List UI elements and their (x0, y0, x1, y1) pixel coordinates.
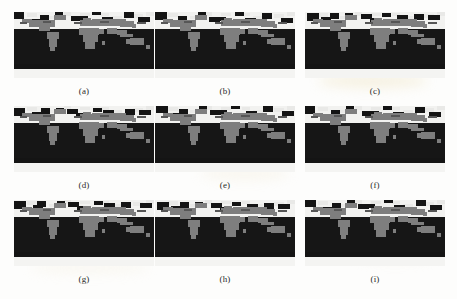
ice-core-patch (318, 201, 329, 206)
sea-ice-speckle (365, 116, 373, 118)
landmass (398, 122, 408, 128)
landmass (388, 123, 396, 128)
landmass (423, 118, 427, 122)
panel-i-map (305, 200, 445, 266)
sea-ice-speckle (311, 116, 319, 118)
landmass (411, 34, 424, 37)
polar-dark-intrusion (382, 13, 390, 17)
panel-grid: (a)(b)(c)(d)(e)(f)(g)(h)(i) (0, 0, 457, 299)
landmass (340, 38, 348, 47)
panel-i-caption: (i) (305, 274, 445, 284)
landmass (388, 217, 396, 222)
landmass (374, 112, 382, 116)
polar-dark-intrusion (305, 200, 316, 207)
landmass (393, 41, 396, 45)
ice-core-patch (318, 107, 329, 112)
landmass (437, 139, 441, 143)
sea-ice-speckle (428, 210, 436, 212)
landmass (398, 28, 408, 34)
polar-dark-intrusion (330, 13, 339, 19)
ice-core-patch (371, 13, 381, 16)
panel-f: (f) (305, 106, 445, 172)
landmass (341, 141, 345, 145)
antarctic-ice-band (305, 163, 445, 172)
panel-c-map (305, 12, 445, 78)
antarctic-ice-band (305, 257, 445, 266)
antarctic-ice-band (305, 69, 445, 78)
landmass (388, 29, 396, 34)
landmass (345, 203, 357, 208)
landmass (423, 24, 427, 28)
sea-ice-speckle (391, 21, 400, 23)
figure-container: (a)(b)(c)(d)(e)(f)(g)(h)(i) (0, 0, 457, 299)
landmass (330, 27, 341, 32)
landmass (374, 206, 382, 210)
landmass (411, 222, 424, 225)
sea-ice-speckle (334, 209, 342, 211)
sea-ice-speckle (391, 115, 400, 117)
ice-core-patch (437, 200, 445, 204)
landmass (330, 215, 341, 220)
panel-c-caption: (c) (305, 86, 445, 96)
sea-ice-speckle (365, 22, 373, 24)
panel-i: (i) (305, 200, 445, 266)
landmass (345, 109, 357, 114)
panel-f-caption: (f) (305, 180, 445, 190)
polar-dark-intrusion (416, 200, 426, 206)
sea-ice-speckle (391, 209, 400, 211)
landmass (398, 216, 408, 222)
sea-ice-speckle (365, 210, 373, 212)
polar-dark-intrusion (383, 106, 391, 110)
sea-ice-speckle (311, 210, 319, 212)
landmass (376, 136, 386, 143)
landmass (340, 132, 348, 141)
landmass (340, 226, 348, 235)
landmass (330, 121, 341, 126)
ice-core-patch (437, 106, 445, 110)
landmass (345, 15, 357, 20)
panel-row-2: (f) (0, 106, 457, 196)
landmass (417, 39, 423, 44)
panel-f-map (305, 106, 445, 172)
landmass (423, 212, 427, 216)
landmass (376, 42, 386, 49)
polar-dark-intrusion (384, 200, 392, 203)
ice-core-patch (392, 107, 400, 110)
panel-row-3: (i) (0, 200, 457, 290)
sea-ice-speckle (428, 22, 436, 24)
sea-ice-speckle (311, 22, 319, 24)
polar-dark-intrusion (428, 15, 441, 20)
landmass (417, 133, 423, 138)
panel-row-1: (c) (0, 12, 457, 102)
landmass (376, 230, 386, 237)
landmass (437, 45, 441, 49)
landmass (393, 229, 396, 233)
sea-ice-speckle (334, 115, 342, 117)
landmass (417, 227, 423, 232)
landmass (411, 128, 424, 131)
ice-core-patch (392, 201, 400, 204)
panel-c: (c) (305, 12, 445, 78)
sea-ice-speckle (428, 116, 436, 118)
sea-ice-speckle (334, 21, 342, 23)
landmass (437, 233, 441, 237)
landmass (393, 135, 396, 139)
landmass (341, 235, 345, 239)
landmass (341, 47, 345, 51)
landmass (374, 18, 382, 22)
